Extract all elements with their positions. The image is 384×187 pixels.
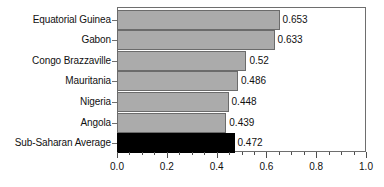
category-label: Mauritania xyxy=(65,71,111,91)
bar-row: 0.633 xyxy=(117,30,366,50)
category-label: Angola xyxy=(80,113,111,133)
axis-tick-major xyxy=(316,152,317,158)
value-axis-ticks xyxy=(117,152,367,160)
axis-tick-minor xyxy=(329,152,330,155)
value-axis-tick-label: 0.8 xyxy=(301,160,331,174)
category-label: Nigeria xyxy=(80,92,111,112)
axis-tick-minor xyxy=(279,152,280,155)
category-label: Gabon xyxy=(81,30,111,50)
bar-value-label: 0.633 xyxy=(275,30,303,50)
category-label: Sub-Saharan Average xyxy=(15,133,111,153)
axis-tick-minor xyxy=(142,152,143,155)
bar xyxy=(117,71,238,91)
value-axis-tick-label: 0.2 xyxy=(152,160,182,174)
axis-tick-major xyxy=(217,152,218,158)
value-axis-tick-labels: 0.00.20.40.60.81.0 xyxy=(0,160,384,176)
bar xyxy=(117,92,229,112)
axis-tick-minor xyxy=(129,152,130,155)
axis-tick-minor xyxy=(179,152,180,155)
axis-tick-major xyxy=(117,152,118,158)
bar-row: 0.448 xyxy=(117,92,366,112)
axis-tick-minor xyxy=(242,152,243,155)
bar xyxy=(117,51,246,71)
category-label: Congo Brazzaville xyxy=(32,51,111,71)
bar-value-label: 0.653 xyxy=(280,10,308,30)
axis-tick-major xyxy=(266,152,267,158)
axis-tick-minor xyxy=(229,152,230,155)
bars-container: 0.6530.6330.520.4860.4480.4390.472 xyxy=(117,7,366,152)
bar xyxy=(117,113,226,133)
bar-value-label: 0.472 xyxy=(235,133,263,153)
value-axis-tick-label: 0.4 xyxy=(202,160,232,174)
axis-tick-minor xyxy=(254,152,255,155)
bar xyxy=(117,10,280,30)
axis-tick-minor xyxy=(192,152,193,155)
bar xyxy=(117,30,275,50)
axis-tick-minor xyxy=(154,152,155,155)
bar-value-label: 0.486 xyxy=(238,71,266,91)
bar-row: 0.52 xyxy=(117,51,366,71)
bar-value-label: 0.439 xyxy=(226,113,254,133)
axis-tick-minor xyxy=(304,152,305,155)
bar-row: 0.653 xyxy=(117,10,366,30)
value-axis-tick-label: 1.0 xyxy=(351,160,381,174)
axis-tick-minor xyxy=(354,152,355,155)
axis-tick-minor xyxy=(291,152,292,155)
category-axis-labels: Equatorial GuineaGabonCongo BrazzavilleM… xyxy=(0,7,115,152)
bar-value-label: 0.448 xyxy=(229,92,257,112)
category-label: Equatorial Guinea xyxy=(33,10,111,30)
value-axis-tick-label: 0.0 xyxy=(102,160,132,174)
bar-row: 0.486 xyxy=(117,71,366,91)
axis-tick-minor xyxy=(341,152,342,155)
bar-highlight xyxy=(117,133,235,153)
bar-row: 0.439 xyxy=(117,113,366,133)
bar-chart: Equatorial GuineaGabonCongo BrazzavilleM… xyxy=(0,0,384,187)
bar-value-label: 0.52 xyxy=(246,51,268,71)
axis-tick-major xyxy=(167,152,168,158)
bar-row: 0.472 xyxy=(117,133,366,153)
value-axis-tick-label: 0.6 xyxy=(251,160,281,174)
axis-tick-minor xyxy=(204,152,205,155)
axis-tick-major xyxy=(366,152,367,158)
